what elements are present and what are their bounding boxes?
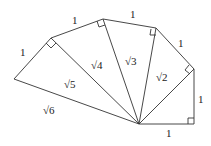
label-sqrt3: √3 [125,56,137,67]
hypotenuse-sqrt6 [14,79,139,124]
right-angle-marker-1 [188,118,194,124]
label-leg-3: 1 [178,38,184,49]
label-sqrt2: √2 [156,72,168,83]
hypotenuse-sqrt4 [103,19,139,124]
right-angle-marker-5 [46,43,56,48]
label-leg-2: 1 [198,94,204,105]
leg-3 [156,28,194,69]
leg-6 [14,38,51,79]
leg-4 [103,19,156,28]
spiral-figure [0,0,211,146]
spiral-diagram: 1 1 1 1 1 1 √2 √3 √4 √5 √6 [0,0,211,146]
right-angle-marker-2 [185,65,190,74]
label-leg-5: 1 [72,15,78,26]
label-leg-6: 1 [20,47,26,58]
label-leg-1: 1 [166,128,172,139]
label-sqrt5: √5 [64,79,76,90]
label-sqrt6: √6 [43,105,55,116]
label-sqrt4: √4 [91,60,103,71]
label-leg-4: 1 [130,9,136,20]
